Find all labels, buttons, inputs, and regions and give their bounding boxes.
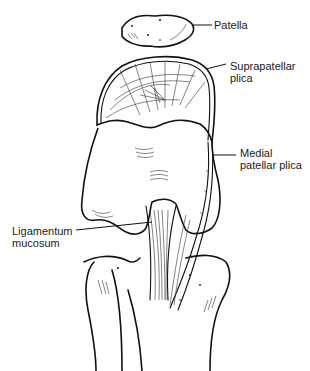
suprapatellar-label-line1: Suprapatellar bbox=[230, 60, 295, 72]
patella-shape bbox=[122, 15, 194, 46]
medial-patellar-plica-label: Medial patellar plica bbox=[240, 147, 302, 171]
ligamentum-label-line2: mucosum bbox=[12, 237, 73, 249]
suprapatellar-plica-label: Suprapatellar plica bbox=[230, 60, 295, 84]
ligamentum-mucosum-label: Ligamentum mucosum bbox=[12, 225, 73, 249]
patella-label: Patella bbox=[214, 19, 248, 31]
medial-label-line1: Medial bbox=[240, 147, 302, 159]
tibia-shape bbox=[84, 255, 229, 371]
ligamentum-label-line1: Ligamentum bbox=[12, 225, 73, 237]
suprapatellar-leader bbox=[206, 64, 226, 69]
suprapatellar-plica-shape bbox=[97, 57, 215, 142]
medial-label-line2: patellar plica bbox=[240, 159, 302, 171]
suprapatellar-label-line2: plica bbox=[230, 72, 295, 84]
knee-illustration bbox=[0, 0, 310, 371]
